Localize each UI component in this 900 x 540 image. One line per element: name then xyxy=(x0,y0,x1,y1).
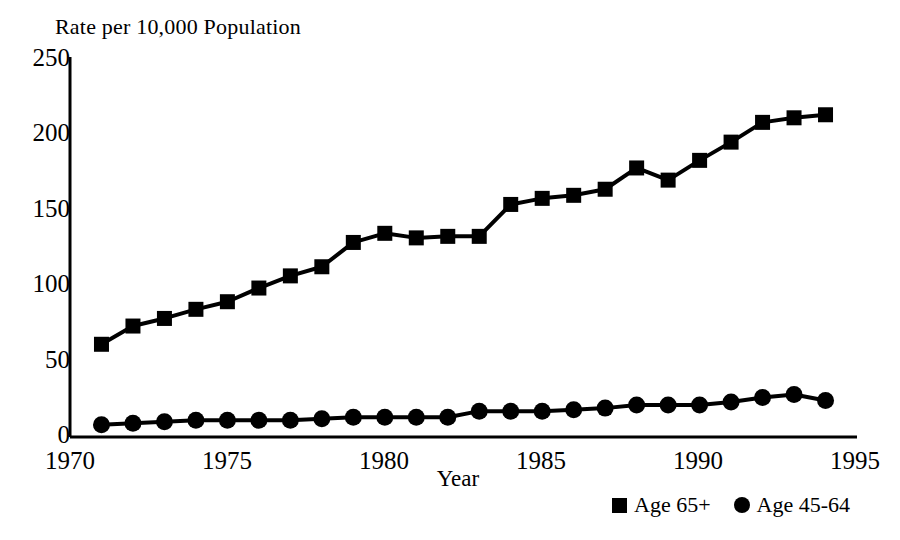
chart-legend: Age 65+ Age 45-64 xyxy=(612,492,850,518)
data-point-square xyxy=(94,337,109,352)
data-point-square xyxy=(125,319,140,334)
series-line xyxy=(101,394,825,424)
data-point-square xyxy=(503,197,518,212)
data-point-circle xyxy=(691,397,708,414)
chart-page: Rate per 10,000 Population 250 200 150 1… xyxy=(0,0,900,540)
data-point-square xyxy=(692,153,707,168)
data-point-circle xyxy=(502,403,519,420)
data-point-circle xyxy=(754,389,771,406)
legend-item-age-45-64: Age 45-64 xyxy=(734,492,850,518)
data-point-circle xyxy=(723,394,740,411)
data-point-circle xyxy=(124,415,141,432)
data-point-square xyxy=(440,229,455,244)
data-point-circle xyxy=(628,397,645,414)
legend-label-age-45-64: Age 45-64 xyxy=(757,492,850,518)
data-point-square xyxy=(755,115,770,130)
data-point-circle xyxy=(439,409,456,426)
data-point-square xyxy=(818,107,833,122)
data-point-square xyxy=(188,302,203,317)
data-point-circle xyxy=(408,409,425,426)
data-point-square xyxy=(314,259,329,274)
data-point-square xyxy=(220,294,235,309)
data-point-circle xyxy=(345,409,362,426)
data-point-square xyxy=(472,229,487,244)
data-point-circle xyxy=(817,392,834,409)
data-point-circle xyxy=(187,412,204,429)
data-point-circle xyxy=(786,386,803,403)
data-point-circle xyxy=(597,400,614,417)
data-point-square xyxy=(346,235,361,250)
data-point-square xyxy=(409,230,424,245)
data-point-square xyxy=(629,160,644,175)
series-age-65-plus xyxy=(94,107,833,352)
legend-label-age-65-plus: Age 65+ xyxy=(634,492,711,518)
data-point-circle xyxy=(282,412,299,429)
data-point-square xyxy=(251,281,266,296)
data-point-square xyxy=(724,135,739,150)
plot-area xyxy=(0,0,900,540)
data-point-square xyxy=(661,173,676,188)
series-age-45-64 xyxy=(93,386,834,433)
series-layer xyxy=(93,107,834,433)
data-point-square xyxy=(566,188,581,203)
data-point-square xyxy=(283,268,298,283)
data-point-circle xyxy=(93,416,110,433)
data-point-circle xyxy=(471,403,488,420)
circle-marker-icon xyxy=(734,497,750,513)
data-point-circle xyxy=(313,410,330,427)
data-point-square xyxy=(535,191,550,206)
data-point-circle xyxy=(565,401,582,418)
legend-item-age-65-plus: Age 65+ xyxy=(612,492,711,518)
square-marker-icon xyxy=(612,498,627,513)
data-point-circle xyxy=(250,412,267,429)
data-point-square xyxy=(377,226,392,241)
data-point-square xyxy=(787,110,802,125)
data-point-circle xyxy=(219,412,236,429)
series-line xyxy=(101,115,825,345)
data-point-circle xyxy=(534,403,551,420)
data-point-circle xyxy=(660,397,677,414)
data-point-circle xyxy=(376,409,393,426)
data-point-square xyxy=(157,311,172,326)
data-point-square xyxy=(598,182,613,197)
data-point-circle xyxy=(156,413,173,430)
